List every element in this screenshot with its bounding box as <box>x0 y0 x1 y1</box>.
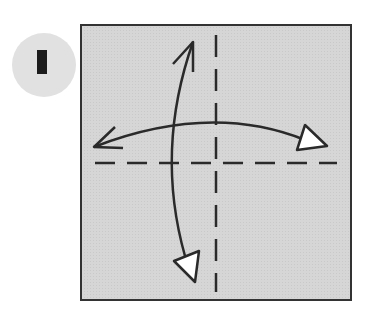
origami-diagram <box>0 0 365 322</box>
